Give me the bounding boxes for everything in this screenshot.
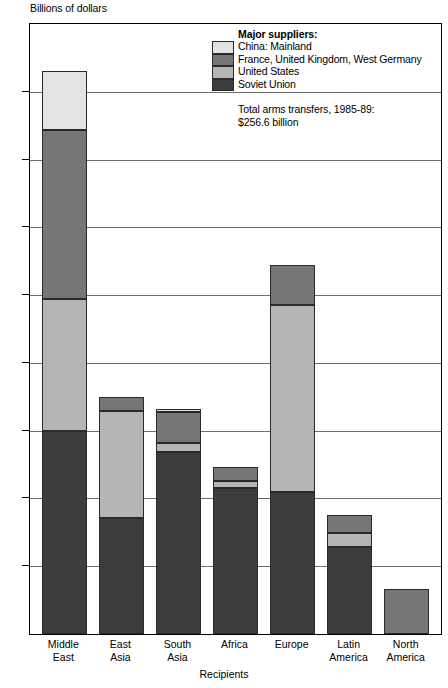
x-label-latin-america: LatinAmerica <box>317 638 381 663</box>
x-label-line: South <box>146 638 210 651</box>
bar-segment-france-united-kingdom-west-germany <box>270 265 316 305</box>
bar-segment-united-states <box>42 299 88 430</box>
legend-label: United States <box>238 65 299 77</box>
legend-swatch <box>212 41 234 54</box>
bar-segment-china-mainland <box>156 409 202 412</box>
legend-swatch <box>212 66 234 79</box>
legend-total-annotation: Total arms transfers, 1985-89: $256.6 bi… <box>238 103 438 129</box>
x-label-line: Africa <box>203 638 267 651</box>
bar-segment-france-united-kingdom-west-germany <box>156 412 202 443</box>
bar-segment-china-mainland <box>42 71 88 130</box>
total-transfers-line: Total arms transfers, 1985-89: <box>238 103 438 116</box>
bar-europe <box>270 265 316 634</box>
x-label-south-asia: SouthAsia <box>146 638 210 663</box>
legend-label: Soviet Union <box>238 78 296 90</box>
bar-segment-soviet-union <box>270 492 316 634</box>
bar-segment-united-states <box>156 443 202 451</box>
bar-africa <box>213 467 259 634</box>
x-label-line: America <box>374 651 438 664</box>
bar-segment-france-united-kingdom-west-germany <box>213 467 259 481</box>
x-label-line: East <box>89 638 153 651</box>
bar-segment-france-united-kingdom-west-germany <box>42 130 88 299</box>
bar-segment-france-united-kingdom-west-germany <box>384 589 430 634</box>
bar-segment-united-states <box>213 481 259 489</box>
y-tick-mark-64 <box>22 91 29 92</box>
bar-segment-united-states <box>327 533 373 547</box>
x-label-line: Asia <box>146 651 210 664</box>
y-tick-mark-16 <box>22 497 29 498</box>
x-label-middle-east: MiddleEast <box>32 638 96 663</box>
x-axis-category-labels: MiddleEastEastAsiaSouthAsiaAfricaEuropeL… <box>29 638 440 672</box>
bar-segment-united-states <box>270 305 316 491</box>
legend-swatch <box>212 79 234 92</box>
bar-north-america <box>384 589 430 634</box>
y-tick-mark-8 <box>22 565 29 566</box>
total-amount-line: $256.6 billion <box>238 116 438 129</box>
legend-label: France, United Kingdom, West Germany <box>238 53 421 65</box>
x-label-europe: Europe <box>260 638 324 651</box>
bar-east-asia <box>99 397 145 634</box>
x-label-line: Europe <box>260 638 324 651</box>
y-axis-title: Billions of dollars <box>30 2 107 14</box>
x-label-north-america: NorthAmerica <box>374 638 438 663</box>
bar-latin-america <box>327 515 373 634</box>
legend-entries: China: MainlandFrance, United Kingdom, W… <box>206 41 438 91</box>
legend: Major suppliers: China: MainlandFrance, … <box>206 28 438 129</box>
x-label-line: Latin <box>317 638 381 651</box>
y-tick-mark-48 <box>22 226 29 227</box>
y-tick-mark-56 <box>22 159 29 160</box>
bar-middle-east <box>42 71 88 634</box>
bar-segment-france-united-kingdom-west-germany <box>99 397 145 411</box>
x-axis-title: Recipients <box>0 668 448 680</box>
x-label-line: Asia <box>89 651 153 664</box>
bar-segment-soviet-union <box>42 431 88 634</box>
y-tick-mark-40 <box>22 294 29 295</box>
x-label-line: North <box>374 638 438 651</box>
arms-transfers-stacked-bar-chart: Billions of dollars 081624324048566472 M… <box>0 0 448 688</box>
legend-item: Soviet Union <box>206 79 438 92</box>
bar-segment-soviet-union <box>213 488 259 634</box>
x-label-africa: Africa <box>203 638 267 651</box>
bar-segment-france-united-kingdom-west-germany <box>327 515 373 533</box>
bar-south-asia <box>156 409 202 634</box>
legend-label: China: Mainland <box>238 40 312 52</box>
x-label-line: East <box>32 651 96 664</box>
legend-swatch <box>212 54 234 67</box>
x-label-line: Middle <box>32 638 96 651</box>
legend-title: Major suppliers: <box>238 28 438 40</box>
y-tick-mark-32 <box>22 362 29 363</box>
x-label-line: America <box>317 651 381 664</box>
y-tick-mark-24 <box>22 430 29 431</box>
bar-segment-soviet-union <box>156 452 202 634</box>
x-label-east-asia: EastAsia <box>89 638 153 663</box>
bar-segment-soviet-union <box>327 547 373 634</box>
bar-segment-soviet-union <box>99 518 145 634</box>
bar-segment-united-states <box>99 411 145 518</box>
